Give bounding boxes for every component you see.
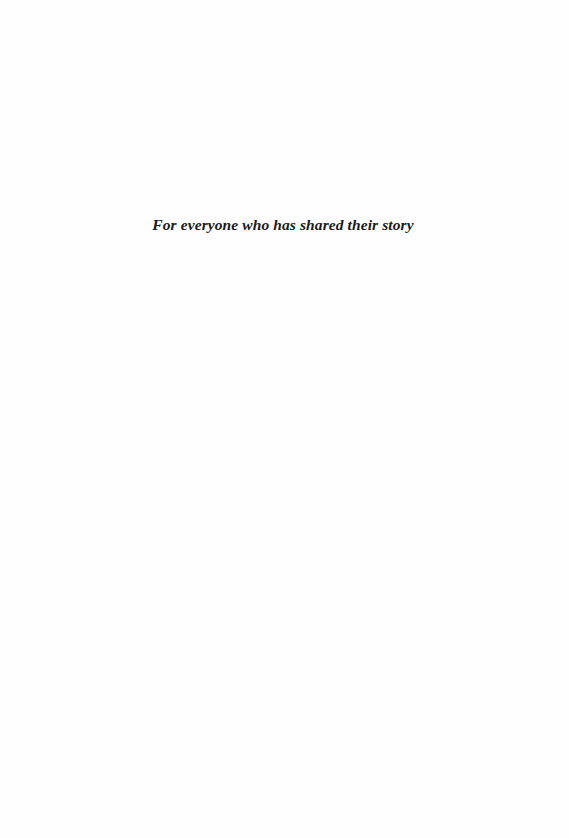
dedication-text: For everyone who has shared their story: [0, 216, 566, 234]
book-page: For everyone who has shared their story: [0, 0, 569, 838]
